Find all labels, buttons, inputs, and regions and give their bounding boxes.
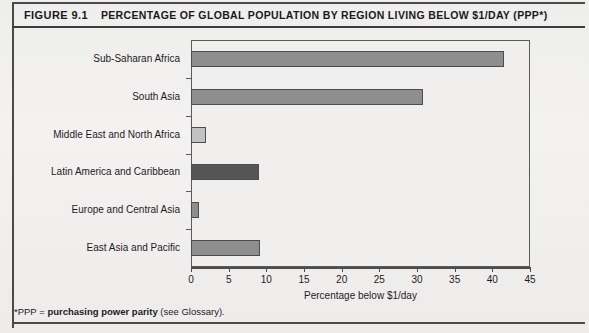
bar-row <box>191 202 530 218</box>
x-axis-tick <box>379 267 380 272</box>
figure-title-bar: FIGURE 9.1 PERCENTAGE OF GLOBAL POPULATI… <box>24 6 547 24</box>
x-axis-tick <box>266 267 267 272</box>
bar <box>191 240 260 256</box>
x-axis-tick <box>191 267 192 272</box>
figure-top-rule <box>12 2 585 4</box>
x-axis-tick-label: 30 <box>402 274 432 285</box>
bar-row <box>191 51 530 67</box>
bars-layer <box>191 40 530 267</box>
category-label: Sub-Saharan Africa <box>93 53 180 65</box>
bar-row <box>191 240 530 256</box>
x-axis-tick <box>342 267 343 272</box>
figure-number: FIGURE 9.1 <box>24 9 88 21</box>
bar-row <box>191 164 530 180</box>
category-label: Middle East and North Africa <box>53 129 180 141</box>
bar-row <box>191 127 530 143</box>
x-axis-title: Percentage below $1/day <box>191 290 530 301</box>
figure-container: FIGURE 9.1 PERCENTAGE OF GLOBAL POPULATI… <box>0 0 589 333</box>
category-label: Europe and Central Asia <box>72 204 180 216</box>
category-label: East Asia and Pacific <box>87 242 180 254</box>
x-axis-tick <box>304 267 305 272</box>
y-axis-tick <box>186 78 191 79</box>
y-axis-tick <box>186 229 191 230</box>
x-axis-tick <box>492 267 493 272</box>
figure-title-separator <box>12 26 585 28</box>
bar <box>191 51 504 67</box>
x-axis-tick-label: 40 <box>477 274 507 285</box>
y-axis-tick <box>186 116 191 117</box>
category-axis-labels: Sub-Saharan AfricaSouth AsiaMiddle East … <box>0 40 186 267</box>
footnote-marker: *PPP = <box>14 306 47 317</box>
y-axis-tick <box>186 191 191 192</box>
figure-footnote: *PPP = purchasing power parity (see Glos… <box>14 306 225 317</box>
category-label: South Asia <box>132 91 180 103</box>
x-axis-tick <box>455 267 456 272</box>
x-axis-tick <box>417 267 418 272</box>
x-axis-tick-label: 45 <box>515 274 545 285</box>
x-axis-tick-label: 5 <box>214 274 244 285</box>
bar <box>191 164 259 180</box>
x-axis-tick-label: 25 <box>364 274 394 285</box>
bar <box>191 89 423 105</box>
x-axis-line <box>191 267 530 269</box>
y-axis-tick <box>186 154 191 155</box>
footnote-term: purchasing power parity <box>47 306 157 317</box>
x-axis-tick-label: 20 <box>327 274 357 285</box>
x-axis-tick-label: 35 <box>440 274 470 285</box>
figure-bottom-rule <box>12 322 585 324</box>
x-axis-tick <box>229 267 230 272</box>
category-label: Latin America and Caribbean <box>51 166 180 178</box>
x-axis-tick-label: 0 <box>176 274 206 285</box>
footnote-tail: (see Glossary). <box>158 306 225 317</box>
x-axis-tick-label: 15 <box>289 274 319 285</box>
bar <box>191 127 206 143</box>
bar-row <box>191 89 530 105</box>
x-axis-tick-label: 10 <box>251 274 281 285</box>
x-axis-tick <box>530 267 531 272</box>
bar <box>191 202 199 218</box>
figure-title: PERCENTAGE OF GLOBAL POPULATION BY REGIO… <box>101 9 548 21</box>
